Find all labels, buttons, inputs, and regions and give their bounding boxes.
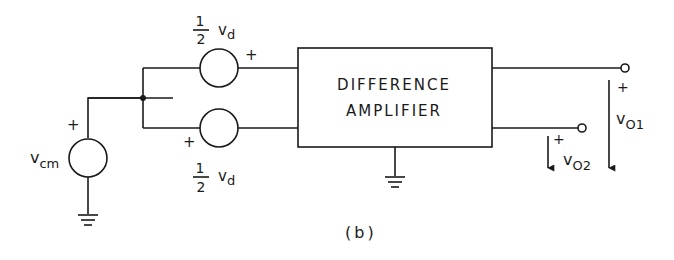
- difference-amplifier-block: DIFFERENCE AMPLIFIER: [298, 48, 492, 187]
- top-differential-source: 1 2 vd +: [143, 13, 298, 87]
- output-1-polarity: +: [617, 79, 629, 95]
- amplifier-label-line2: AMPLIFIER: [346, 102, 442, 120]
- output-1-terminal: [621, 64, 629, 72]
- bottom-frac-num: 1: [196, 160, 205, 176]
- output-1-label: vO1: [616, 109, 644, 132]
- bottom-differential-source: + 1 2 vd: [143, 109, 298, 195]
- output-2-polarity: +: [553, 131, 565, 147]
- ground-icon: [78, 215, 98, 225]
- bottom-vd-polarity: +: [183, 133, 196, 151]
- output-2-label: vO2: [563, 150, 591, 173]
- top-frac-num: 1: [196, 13, 205, 29]
- vcm-source-circle: [69, 139, 107, 177]
- bottom-vd-source-circle: [200, 109, 238, 147]
- bottom-vd-label: vd: [218, 167, 235, 188]
- vcm-label: vcm: [30, 148, 59, 171]
- amplifier-label-line1: DIFFERENCE: [337, 76, 451, 94]
- figure-caption: (b): [345, 223, 377, 242]
- top-vd-label: vd: [218, 21, 235, 42]
- top-vd-source-circle: [200, 49, 238, 87]
- ground-icon: [385, 177, 405, 187]
- output-2-terminal: [578, 124, 586, 132]
- common-mode-source: + vcm: [30, 98, 173, 225]
- bottom-frac-den: 2: [197, 179, 206, 195]
- vcm-polarity: +: [67, 116, 80, 134]
- top-frac-den: 2: [197, 31, 206, 47]
- wire-vcm-to-junction: [88, 98, 173, 138]
- circuit-diagram: + vcm 1 2 vd + + 1 2 vd DIFFERENCE AMPLI…: [0, 0, 674, 260]
- output-2: + vO2: [492, 124, 591, 173]
- top-vd-polarity: +: [245, 46, 258, 64]
